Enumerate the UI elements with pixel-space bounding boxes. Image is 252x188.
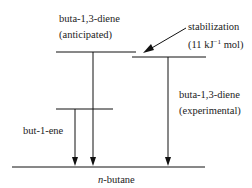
label-experimental-line2: (experimental) xyxy=(179,105,241,117)
arrow-butene-to-butane xyxy=(72,109,78,166)
arrow-experimental-to-butane xyxy=(165,57,171,166)
label-stabilization-line1: stabilization xyxy=(188,21,240,32)
label-anticipated-line2: (anticipated) xyxy=(59,29,113,41)
label-stabilization-line2: (11 kJ−1 mol) xyxy=(188,38,244,51)
label-butene: but-1-ene xyxy=(23,125,64,136)
label-experimental-line1: buta-1,3-diene xyxy=(179,89,240,100)
energy-diagram: buta-1,3-diene (anticipated) stabilizati… xyxy=(0,0,252,188)
stabilization-arrow xyxy=(143,28,186,53)
label-anticipated-line1: buta-1,3-diene xyxy=(59,13,120,24)
label-butane: n-butane xyxy=(98,174,135,185)
